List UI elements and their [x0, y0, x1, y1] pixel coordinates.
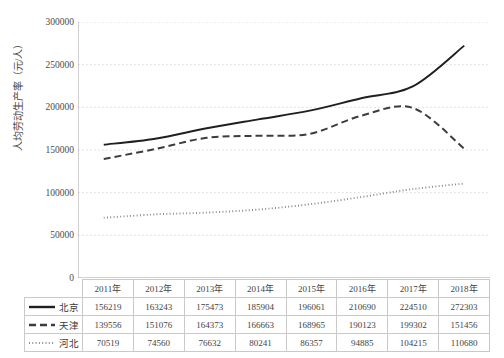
y-axis-tick-labels: 300000250000200000150000100000500000 [10, 22, 74, 278]
table-cell: 110680 [439, 334, 490, 352]
table-cell: 86357 [286, 334, 337, 352]
table-column-header: 2016年 [337, 280, 388, 298]
y-tick-label: 200000 [18, 102, 74, 112]
table-cell: 104215 [388, 334, 439, 352]
line-chart-svg [78, 22, 490, 278]
table-cell: 164373 [184, 316, 235, 334]
legend-cell: 天津 [25, 316, 83, 334]
table-cell: 210690 [337, 298, 388, 316]
table-column-header: 2012年 [133, 280, 184, 298]
series-line-天津 [104, 106, 465, 159]
table-cell: 94885 [337, 334, 388, 352]
table-row: 河北70519745607663280241863579488510421511… [25, 334, 490, 352]
table-cell: 70519 [83, 334, 134, 352]
y-tick-label: 150000 [18, 145, 74, 155]
chart-figure: 人均劳动生产率（元/人） 300000250000200000150000100… [0, 0, 504, 358]
table-cell: 175473 [184, 298, 235, 316]
table-row: 北京15621916324317547318590419606121069022… [25, 298, 490, 316]
table-cell: 163243 [133, 298, 184, 316]
table-corner-cell [25, 280, 83, 298]
table-cell: 139556 [83, 316, 134, 334]
table-column-header: 2013年 [184, 280, 235, 298]
data-table: 2011年2012年2013年2014年2015年2016年2017年2018年… [24, 279, 490, 352]
legend-label: 北京 [59, 300, 79, 314]
table-cell: 196061 [286, 298, 337, 316]
table-column-header: 2018年 [439, 280, 490, 298]
table-cell: 199302 [388, 316, 439, 334]
legend-label: 河北 [59, 336, 79, 350]
table-cell: 166663 [235, 316, 286, 334]
table-cell: 74560 [133, 334, 184, 352]
table-cell: 190123 [337, 316, 388, 334]
legend-cell: 北京 [25, 298, 83, 316]
y-tick-label: 50000 [18, 230, 74, 240]
y-tick-label: 100000 [18, 188, 74, 198]
table-cell: 224510 [388, 298, 439, 316]
table-header-row: 2011年2012年2013年2014年2015年2016年2017年2018年 [25, 280, 490, 298]
table-cell: 168965 [286, 316, 337, 334]
table-cell: 151076 [133, 316, 184, 334]
table-cell: 80241 [235, 334, 286, 352]
dotted-line-icon [29, 338, 55, 348]
table-column-header: 2015年 [286, 280, 337, 298]
dashed-line-icon [29, 320, 55, 330]
table-cell: 156219 [83, 298, 134, 316]
table-cell: 272303 [439, 298, 490, 316]
legend-cell: 河北 [25, 334, 83, 352]
solid-line-icon [29, 302, 55, 312]
table-column-header: 2014年 [235, 280, 286, 298]
table-column-header: 2011年 [83, 280, 134, 298]
series-line-河北 [104, 184, 465, 218]
table-body: 北京15621916324317547318590419606121069022… [25, 298, 490, 352]
y-tick-label: 250000 [18, 60, 74, 70]
table-head: 2011年2012年2013年2014年2015年2016年2017年2018年 [25, 280, 490, 298]
table-cell: 76632 [184, 334, 235, 352]
table-cell: 151456 [439, 316, 490, 334]
table-column-header: 2017年 [388, 280, 439, 298]
legend-label: 天津 [59, 318, 79, 332]
table-cell: 185904 [235, 298, 286, 316]
plot-area [78, 22, 490, 278]
table-row: 天津13955615107616437316666316896519012319… [25, 316, 490, 334]
series-line-北京 [104, 46, 465, 145]
y-tick-label: 300000 [18, 17, 74, 27]
